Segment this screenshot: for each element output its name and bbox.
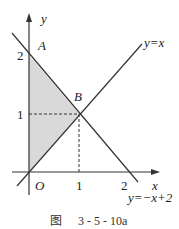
x-axis-arrow-icon: [151, 169, 160, 175]
y-tick-2: 2: [17, 48, 24, 63]
y-tick-1: 1: [17, 107, 24, 122]
point-a-label: A: [37, 38, 46, 53]
point-b-label: B: [74, 89, 82, 104]
y-axis-label: y: [39, 11, 47, 26]
origin-label: O: [35, 178, 45, 193]
caption-prefix: 图: [50, 214, 62, 228]
x-tick-1: 1: [76, 178, 83, 193]
caption-number: 3 - 5 - 10a: [78, 214, 128, 228]
y-axis-arrow-icon: [26, 13, 32, 22]
line-label-y-equals-x: y=x: [142, 35, 165, 50]
x-tick-2: 2: [121, 178, 128, 193]
coordinate-diagram: y x O A B 2 1 1 2 y=x y=−x+2 图 3 - 5 - 1…: [0, 0, 179, 229]
line-label-y-equals-neg-x-plus-2: y=−x+2: [126, 190, 173, 205]
